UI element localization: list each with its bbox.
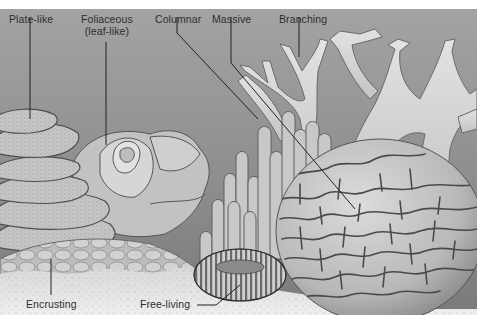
- label-massive: Massive: [212, 13, 251, 25]
- label-foliaceous-line1: Foliaceous: [81, 13, 133, 25]
- label-columnar: Columnar: [155, 13, 201, 25]
- label-plate-like: Plate-like: [9, 13, 53, 25]
- coral-illustration: [0, 9, 477, 315]
- coral-growth-forms-figure: Plate-like Foliaceous (leaf-like) Column…: [0, 0, 482, 319]
- label-foliaceous: Foliaceous (leaf-like): [81, 13, 133, 37]
- free-living-coral: [194, 249, 286, 301]
- label-encrusting: Encrusting: [26, 298, 77, 310]
- label-foliaceous-line2: (leaf-like): [81, 25, 133, 37]
- label-free-living: Free-living: [140, 298, 190, 310]
- label-branching: Branching: [279, 13, 327, 25]
- illustration-panel: Plate-like Foliaceous (leaf-like) Column…: [0, 9, 477, 315]
